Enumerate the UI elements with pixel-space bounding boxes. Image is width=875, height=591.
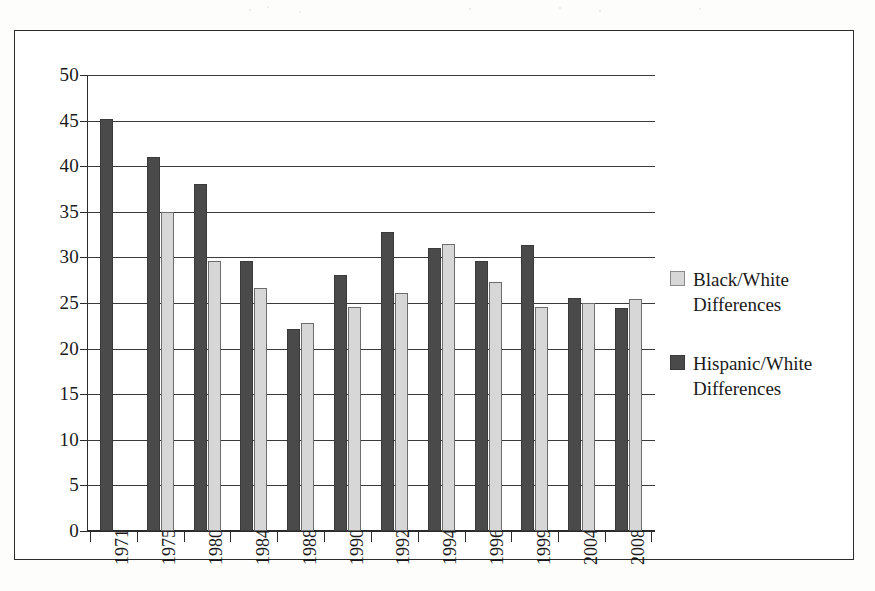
bar-group-1994 — [418, 75, 465, 531]
x-axis-label-slot: 2008 — [605, 545, 652, 591]
bar-black-white-1988 — [301, 323, 314, 531]
x-axis-tick-mark — [651, 531, 652, 542]
bar-black-white-1980 — [208, 261, 221, 531]
light-gray-swatch — [670, 271, 685, 286]
y-axis-tick-label: 5 — [37, 475, 79, 494]
y-axis-tick-label: 45 — [37, 111, 79, 130]
x-axis-tick-mark — [465, 531, 466, 542]
x-axis-tick-mark — [277, 531, 278, 542]
x-axis-label-slot: 1971 — [90, 545, 137, 591]
bar-hispanic-white-1988 — [287, 329, 300, 531]
y-axis-tick-label: 10 — [37, 430, 79, 449]
x-axis-tick-label-1990: 1990 — [348, 529, 366, 565]
y-axis-tick-label: 20 — [37, 339, 79, 358]
x-axis-tick-mark — [230, 531, 231, 542]
x-axis-tick-mark — [418, 531, 419, 542]
bar-black-white-1984 — [254, 288, 267, 531]
x-axis-tick-label-1971: 1971 — [113, 529, 131, 565]
x-axis-tick-mark — [558, 531, 559, 542]
x-axis-tick-mark — [371, 531, 372, 542]
bar-hispanic-white-1992 — [381, 232, 394, 531]
bar-group-1988 — [277, 75, 324, 531]
dark-gray-swatch — [670, 355, 685, 370]
scan-artifact-speckle — [0, 0, 875, 26]
bar-black-white-2004 — [582, 303, 595, 531]
bar-black-white-1992 — [395, 293, 408, 531]
legend-entry-1: Black/WhiteDifferences — [670, 267, 855, 317]
bar-hispanic-white-1990 — [334, 275, 347, 531]
bar-hispanic-white-1975 — [147, 157, 160, 531]
bar-hispanic-white-1980 — [194, 184, 207, 531]
x-axis-tick-mark — [137, 531, 138, 542]
bar-hispanic-white-1996 — [475, 261, 488, 531]
x-axis-tick-label-1975: 1975 — [160, 529, 178, 565]
bar-black-white-2008 — [629, 299, 642, 531]
x-axis-tick-label-1980: 1980 — [207, 529, 225, 565]
x-axis-labels: 1971197519801984198819901992199419961999… — [87, 545, 655, 591]
bar-group-1971 — [90, 75, 137, 531]
x-axis-tick-mark — [90, 531, 91, 542]
x-axis-label-slot: 1996 — [465, 545, 512, 591]
legend-label-line-1: Hispanic/White — [693, 351, 812, 376]
x-axis-tick-label-2004: 2004 — [582, 529, 600, 565]
y-axis-tick-label: 25 — [37, 293, 79, 312]
x-axis-tick-mark — [184, 531, 185, 542]
x-axis-tick-mark — [324, 531, 325, 542]
legend-label-line-1: Black/White — [693, 267, 789, 292]
bar-black-white-1975 — [161, 212, 174, 531]
chart-legend: Black/WhiteDifferencesHispanic/WhiteDiff… — [670, 267, 855, 435]
x-axis-tick-label-1992: 1992 — [394, 529, 412, 565]
legend-label: Hispanic/WhiteDifferences — [693, 351, 812, 401]
bar-hispanic-white-1971 — [100, 119, 113, 531]
x-axis-tick-label-1984: 1984 — [254, 529, 272, 565]
figure-canvas: 05101520253035404550 1971197519801984198… — [0, 0, 875, 591]
bar-hispanic-white-1999 — [521, 245, 534, 531]
x-axis-tick-label-1999: 1999 — [535, 529, 553, 565]
x-axis-label-slot: 1984 — [230, 545, 277, 591]
bar-group-1975 — [137, 75, 184, 531]
x-axis-tick-label-2008: 2008 — [629, 529, 647, 565]
y-axis-tick-label: 30 — [37, 247, 79, 266]
bar-hispanic-white-2008 — [615, 308, 628, 531]
bar-group-2004 — [558, 75, 605, 531]
y-axis: 05101520253035404550 — [27, 75, 79, 531]
bar-group-1990 — [324, 75, 371, 531]
bar-hispanic-white-1984 — [240, 261, 253, 531]
plot-area — [87, 75, 655, 531]
y-axis-tick-label: 35 — [37, 202, 79, 221]
x-axis-tick-mark — [511, 531, 512, 542]
bar-group-1984 — [230, 75, 277, 531]
y-axis-tick-label: 40 — [37, 156, 79, 175]
x-axis-tick-mark — [605, 531, 606, 542]
legend-entry-2: Hispanic/WhiteDifferences — [670, 351, 855, 401]
x-axis-tick-label-1994: 1994 — [441, 529, 459, 565]
chart-frame: 05101520253035404550 1971197519801984198… — [14, 30, 854, 560]
bar-group-1992 — [371, 75, 418, 531]
x-axis-label-slot: 2004 — [558, 545, 605, 591]
bar-group-2008 — [605, 75, 652, 531]
legend-label-line-2: Differences — [693, 376, 812, 401]
x-axis-tick-label-1996: 1996 — [488, 529, 506, 565]
x-axis-label-slot: 1994 — [418, 545, 465, 591]
bar-group-1980 — [184, 75, 231, 531]
bar-black-white-1999 — [535, 307, 548, 531]
y-axis-tick-label: 15 — [37, 384, 79, 403]
bar-group-1996 — [465, 75, 512, 531]
legend-label-line-2: Differences — [693, 292, 789, 317]
bar-group-1999 — [511, 75, 558, 531]
bar-groups — [87, 75, 655, 531]
x-axis-label-slot: 1980 — [184, 545, 231, 591]
bar-black-white-1994 — [442, 244, 455, 531]
x-axis-label-slot: 1992 — [371, 545, 418, 591]
x-axis-label-slot: 1988 — [277, 545, 324, 591]
x-axis-label-slot: 1975 — [137, 545, 184, 591]
y-axis-tick-label: 0 — [37, 521, 79, 540]
x-axis-label-slot: 1990 — [324, 545, 371, 591]
x-axis-tick-label-1988: 1988 — [301, 529, 319, 565]
y-axis-tick-label: 50 — [37, 65, 79, 84]
legend-label: Black/WhiteDifferences — [693, 267, 789, 317]
bar-hispanic-white-1994 — [428, 248, 441, 531]
bar-black-white-1990 — [348, 307, 361, 531]
bar-black-white-1996 — [489, 282, 502, 531]
x-axis-label-slot: 1999 — [511, 545, 558, 591]
